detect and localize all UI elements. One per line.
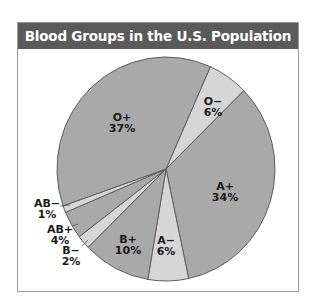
- label-ab-neg: AB−1%: [34, 198, 60, 220]
- label-b-neg: B−2%: [62, 245, 81, 267]
- label-b-pos: B+10%: [115, 234, 141, 256]
- label-o-neg: O−6%: [204, 96, 223, 118]
- label-a-pos: A+34%: [212, 181, 238, 203]
- label-o-pos: O+37%: [109, 112, 135, 134]
- pie-chart: [0, 0, 316, 307]
- label-ab-pos: AB+4%: [47, 224, 73, 246]
- label-a-neg: A−6%: [157, 235, 176, 257]
